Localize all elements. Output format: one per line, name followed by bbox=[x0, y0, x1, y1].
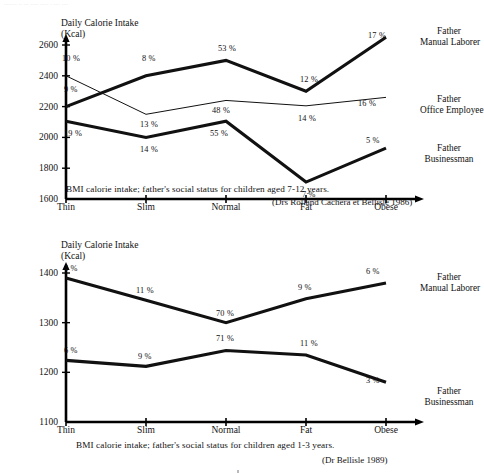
series-legend-label: FatherManual Laborer bbox=[420, 26, 478, 48]
x-tick-label: Thin bbox=[36, 202, 96, 212]
series-legend-label: FatherManual Laborer bbox=[420, 272, 478, 294]
point-percent-label: 14 % bbox=[298, 114, 316, 123]
caption-bottom: BMI calorie intake; father's social stat… bbox=[76, 440, 335, 450]
point-percent-label: 11 % bbox=[300, 339, 318, 348]
point-percent-label: 9 % bbox=[298, 283, 312, 292]
series-legend-line2: Manual Laborer bbox=[420, 283, 480, 293]
y-tick-label: 2200 bbox=[24, 102, 58, 112]
x-tick-label: Normal bbox=[196, 202, 256, 212]
y-tick-label: 1400 bbox=[24, 268, 58, 278]
point-percent-label: 55 % bbox=[210, 129, 228, 138]
point-percent-label: 12 % bbox=[300, 75, 318, 84]
point-percent-label: 6 % bbox=[366, 267, 380, 276]
point-percent-label: 70 % bbox=[216, 309, 234, 318]
point-percent-label: 10 % bbox=[62, 54, 80, 63]
y-tick-label: 2400 bbox=[24, 71, 58, 81]
series-legend-line1: Father bbox=[437, 26, 461, 36]
series-legend-line2: Businessman bbox=[424, 154, 473, 164]
x-tick-label: Normal bbox=[196, 425, 256, 435]
point-percent-label: 5 % bbox=[366, 136, 380, 145]
series-legend-label: FatherBusinessman bbox=[420, 143, 478, 165]
series-legend-label: FatherOffice Employee bbox=[420, 94, 478, 116]
caption-top: BMI calorie intake; father's social stat… bbox=[66, 184, 329, 194]
point-percent-label: 14 % bbox=[140, 145, 158, 154]
y-axis-title-line1: Daily Calorie Intake bbox=[61, 240, 139, 250]
y-axis-title-top: Daily Calorie Intake (Kcal) bbox=[61, 18, 139, 39]
x-tick-label: Slim bbox=[116, 202, 176, 212]
y-tick-label: 2600 bbox=[24, 40, 58, 50]
x-tick-label: Slim bbox=[116, 425, 176, 435]
series-legend-label: FatherBusinessman bbox=[420, 386, 478, 408]
x-tick-label: Thin bbox=[36, 425, 96, 435]
y-tick-label: 1300 bbox=[24, 318, 58, 328]
point-percent-label: 53 % bbox=[218, 44, 236, 53]
point-percent-label: 9 % bbox=[64, 85, 78, 94]
point-percent-label: 9 % bbox=[138, 352, 152, 361]
y-axis-title-bottom: Daily Calorie Intake (Kcal) bbox=[61, 240, 139, 261]
y-tick-label: 1200 bbox=[24, 367, 58, 377]
y-tick-label: 1800 bbox=[24, 163, 58, 173]
point-percent-label: 6 % bbox=[64, 346, 78, 355]
series-legend-line2: Office Employee bbox=[420, 105, 484, 115]
y-axis-title-line2: (Kcal) bbox=[61, 29, 85, 39]
x-tick-label: Obese bbox=[356, 425, 416, 435]
x-tick-label: Fat bbox=[276, 425, 336, 435]
source-bottom: (Dr Bellisle 1989) bbox=[322, 455, 388, 465]
plot-svg-top bbox=[0, 12, 479, 208]
scan-artifact-text: ........ .. ... ..... ..... . .... .... bbox=[4, 1, 94, 6]
y-axis-title-line1: Daily Calorie Intake bbox=[61, 18, 139, 28]
point-percent-label: 17 % bbox=[368, 31, 386, 40]
series-legend-line2: Manual Laborer bbox=[420, 37, 480, 47]
chart-top: Daily Calorie Intake (Kcal) 160018002000… bbox=[0, 12, 479, 208]
point-percent-label: 11 % bbox=[136, 286, 154, 295]
point-percent-label: 8 % bbox=[142, 54, 156, 63]
series-legend-line2: Businessman bbox=[424, 397, 473, 407]
source-top: (Drs Rolland Cachera et Bellisle 1986) bbox=[272, 197, 412, 207]
series-legend-line1: Father bbox=[437, 143, 461, 153]
point-percent-label: 19 % bbox=[64, 129, 82, 138]
y-tick-label: 2000 bbox=[24, 132, 58, 142]
point-percent-label: 3 % bbox=[366, 376, 380, 385]
series-legend-line1: Father bbox=[437, 272, 461, 282]
chart-bottom: Daily Calorie Intake (Kcal) 110012001300… bbox=[0, 236, 479, 474]
point-percent-label: 13 % bbox=[140, 120, 158, 129]
point-percent-label: 71 % bbox=[216, 334, 234, 343]
point-percent-label: 16 % bbox=[358, 99, 376, 108]
series-legend-line1: Father bbox=[437, 386, 461, 396]
y-axis-title-line2: (Kcal) bbox=[61, 251, 85, 261]
plot-area-top bbox=[0, 12, 479, 208]
point-percent-label: 48 % bbox=[212, 106, 230, 115]
point-percent-label: 4 % bbox=[64, 264, 78, 273]
series-legend-line1: Father bbox=[437, 94, 461, 104]
scan-speck bbox=[237, 470, 239, 473]
